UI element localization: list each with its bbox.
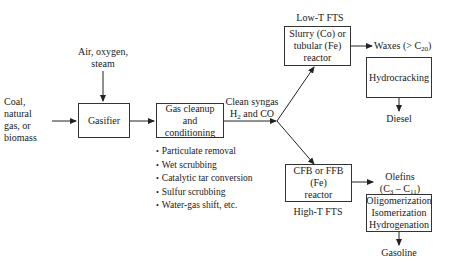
syngas-co: and CO <box>241 108 274 119</box>
cleanup-line: Gas cleanup <box>165 103 214 115</box>
gasifier-label: Gasifier <box>88 115 120 127</box>
oxidant-label: Air, oxygen, steam <box>78 46 128 70</box>
low-t-reactor-line: Slurry (Co) or <box>289 28 346 40</box>
cleanup-step: Catalytic tar conversion <box>156 172 253 186</box>
gasoline-label: Gasoline <box>374 247 424 259</box>
waxes-label: Waxes (> C20) <box>374 40 431 52</box>
olefins-text: Olefins <box>374 171 426 183</box>
low-t-reactor-line: reactor <box>304 52 332 64</box>
diesel-label: Diesel <box>374 113 424 125</box>
low-t-reactor-box: Slurry (Co) or tubular (Fe) reactor <box>284 26 351 66</box>
hydrocracking-label: Hydrocracking <box>369 72 429 84</box>
feedstock-line: biomass <box>4 132 37 144</box>
waxes-sub: 20 <box>421 45 428 53</box>
upgrading-line: Oligomerization <box>366 195 432 207</box>
waxes-close: ) <box>428 40 431 51</box>
low-t-fts-header: Low-T FTS <box>290 12 350 24</box>
high-t-reactor-line: CFB or FFB (Fe) <box>286 165 351 189</box>
olefin-upgrading-box: Oligomerization Isomerization Hydrogenat… <box>366 194 432 232</box>
olefins-label: Olefins (C3 – C11) <box>374 171 426 195</box>
syngas-line2: H2 and CO <box>224 108 280 120</box>
feedstock-line: natural <box>4 108 37 120</box>
waxes-text: Waxes (> C <box>374 40 421 51</box>
gasifier-box: Gasifier <box>78 103 130 138</box>
gas-cleanup-box: Gas cleanup and conditioning <box>156 103 224 138</box>
upgrading-line: Hydrogenation <box>369 219 429 231</box>
syngas-line1: Clean syngas <box>224 96 280 108</box>
cleanup-step: Water-gas shift, etc. <box>156 199 253 213</box>
cleanup-step: Sulfur scrubbing <box>156 186 253 200</box>
hydrocracking-box: Hydrocracking <box>366 57 432 98</box>
low-t-reactor-line: tubular (Fe) <box>294 40 342 52</box>
high-t-reactor-box: CFB or FFB (Fe) reactor <box>285 164 352 202</box>
oxidant-line: steam <box>78 58 128 70</box>
cleanup-step: Particulate removal <box>156 145 253 159</box>
cleanup-steps-list: Particulate removal Wet scrubbing Cataly… <box>156 145 253 213</box>
syngas-label: Clean syngas H2 and CO <box>224 96 280 120</box>
feedstock-line: gas, or <box>4 120 37 132</box>
oxidant-line: Air, oxygen, <box>78 46 128 58</box>
cleanup-step: Wet scrubbing <box>156 159 253 173</box>
feedstock-line: Coal, <box>4 96 37 108</box>
cleanup-line: and conditioning <box>157 115 223 139</box>
feedstock-label: Coal, natural gas, or biomass <box>4 96 37 144</box>
upgrading-line: Isomerization <box>372 207 427 219</box>
high-t-fts-footer: High-T FTS <box>288 206 348 218</box>
high-t-reactor-line: reactor <box>305 189 333 201</box>
